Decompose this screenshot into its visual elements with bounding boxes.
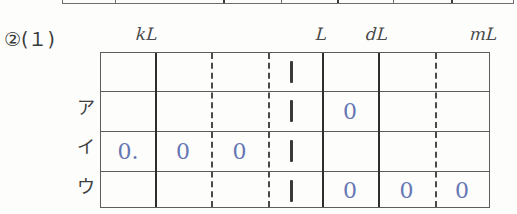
decimal-tick [290, 140, 293, 162]
column-divider-dashed [268, 53, 270, 207]
fragment-divider [115, 0, 116, 3]
row-label-a: ア [74, 93, 98, 119]
table-cell[interactable]: 0 [322, 171, 378, 209]
row-label-i: イ [74, 132, 98, 158]
column-divider-thick [155, 53, 157, 207]
fragment-divider [281, 0, 282, 3]
decimal-tick [290, 61, 293, 83]
table-cell[interactable]: 0 [322, 91, 378, 131]
table-cell[interactable]: 0 [211, 131, 268, 171]
unit-header-dl: dL [365, 24, 389, 44]
table-cell[interactable]: 0 [378, 171, 435, 209]
fragment-divider [223, 0, 225, 3]
fragment-divider [337, 0, 339, 3]
unit-header-l: L [315, 24, 328, 44]
problem-number-label: ②(１) [4, 24, 55, 51]
unit-header-kl: kL [135, 24, 158, 44]
table-cell[interactable]: 0 [155, 131, 211, 171]
table-cell[interactable]: 0 [435, 171, 489, 209]
row-label-u: ウ [74, 172, 98, 198]
column-divider-dashed [211, 53, 213, 207]
table-cell[interactable]: 0. [101, 131, 155, 171]
decimal-tick [290, 100, 293, 122]
decimal-tick [290, 180, 293, 202]
previous-table-fragment [62, 0, 514, 4]
unit-header-ml: mL [469, 24, 498, 44]
fragment-divider [451, 0, 453, 3]
place-value-table[interactable]: 0 0. 0 0 0 0 0 [100, 52, 490, 208]
fragment-divider [393, 0, 394, 3]
row-divider [101, 91, 489, 92]
